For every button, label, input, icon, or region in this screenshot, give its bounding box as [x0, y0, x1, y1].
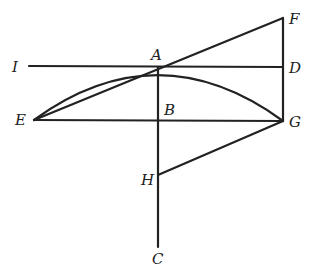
geometry-diagram: I A D F E B G H C — [0, 0, 314, 278]
label-A: A — [149, 46, 162, 64]
label-D: D — [288, 59, 301, 77]
line-HG — [158, 121, 283, 175]
label-F: F — [288, 10, 300, 28]
line-ID — [29, 66, 283, 67]
label-E: E — [14, 111, 26, 129]
label-C: C — [152, 250, 164, 268]
label-G: G — [289, 113, 301, 131]
label-H: H — [140, 171, 155, 189]
label-I: I — [11, 58, 19, 76]
label-B: B — [163, 101, 175, 119]
